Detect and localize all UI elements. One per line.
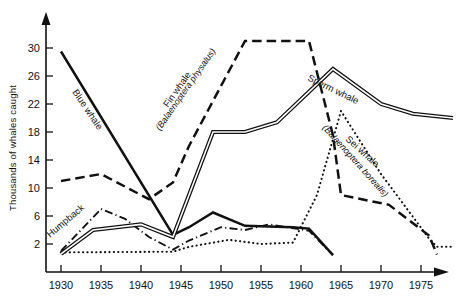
series-layer <box>61 41 453 255</box>
y-tick-label-22: 22 <box>28 98 40 110</box>
x-tick-label-1975: 1975 <box>409 279 433 291</box>
y-tick-label-14: 14 <box>28 154 40 166</box>
series-line-sei-whale <box>61 111 453 252</box>
y-axis-title: Thousands of whales caught <box>7 85 18 211</box>
x-tick-label-1940: 1940 <box>129 279 153 291</box>
y-ticks: 30 26 22 18 14 10 6 2 <box>28 42 53 250</box>
x-tick-label-1935: 1935 <box>89 279 113 291</box>
series-line-blue-whale <box>61 52 333 256</box>
series-line-fin-whale <box>61 41 437 255</box>
whale-catch-chart: 30 26 22 18 14 10 6 2 Thousands of whale… <box>0 0 458 298</box>
x-tick-label-1950: 1950 <box>209 279 233 291</box>
x-axis-arrow <box>434 268 449 277</box>
series-line-humpback-whale <box>61 209 333 255</box>
label-humpback-whale: Humpback <box>44 202 86 240</box>
y-tick-label-18: 18 <box>28 126 40 138</box>
y-tick-label-10: 10 <box>28 182 40 194</box>
y-tick-label-6: 6 <box>34 210 40 222</box>
axes <box>42 12 450 277</box>
x-tick-label-1960: 1960 <box>289 279 313 291</box>
y-tick-label-30: 30 <box>28 42 40 54</box>
x-ticks: 1930 1935 1940 1945 1950 1955 1960 1965 … <box>49 265 433 291</box>
chart-svg: 30 26 22 18 14 10 6 2 Thousands of whale… <box>0 0 458 298</box>
y-axis-arrow <box>42 12 51 25</box>
label-fin-whale-latin: (Balaenoptera physalus) <box>153 46 217 132</box>
x-tick-label-1930: 1930 <box>49 279 73 291</box>
x-tick-label-1945: 1945 <box>169 279 193 291</box>
y-tick-label-2: 2 <box>34 238 40 250</box>
x-tick-label-1970: 1970 <box>369 279 393 291</box>
x-tick-label-1955: 1955 <box>249 279 273 291</box>
x-tick-label-1965: 1965 <box>329 279 353 291</box>
y-tick-label-26: 26 <box>28 70 40 82</box>
